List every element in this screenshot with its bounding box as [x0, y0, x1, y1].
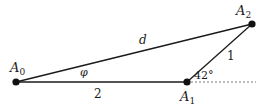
label-edge-d: d: [139, 33, 147, 47]
label-a0: A0: [9, 60, 25, 77]
point-a2: [248, 20, 255, 27]
point-a0: [12, 78, 19, 85]
triangle-diagram: A0 A1 A2 d 2 1 φ 42°: [0, 0, 264, 106]
label-edge-2: 2: [94, 87, 102, 101]
label-edge-1: 1: [227, 49, 235, 63]
label-a2: A2: [235, 3, 251, 20]
edge-a0-a2: [16, 24, 252, 82]
label-angle-phi: φ: [80, 66, 88, 79]
label-angle-42: 42°: [194, 69, 214, 82]
label-a1: A1: [179, 89, 195, 106]
point-a1: [183, 78, 190, 85]
